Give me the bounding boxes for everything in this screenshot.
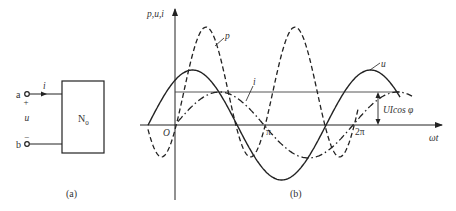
label-p: p xyxy=(224,31,230,41)
figure-canvas: a b + − u i N0 (a) p,u,i ωt O π 2π p i xyxy=(0,0,456,211)
arrow-up-icon xyxy=(376,92,381,98)
caption-a: (a) xyxy=(66,188,77,200)
mean-annotation: UIcos φ xyxy=(383,105,413,115)
label-i: i xyxy=(253,77,256,87)
arrow-down-icon xyxy=(376,119,381,125)
current-label: i xyxy=(43,81,46,91)
terminal-b-node xyxy=(25,142,30,147)
circuit-diagram: a b + − u i N0 (a) xyxy=(16,81,104,200)
minus-sign: − xyxy=(24,132,29,142)
label-u: u xyxy=(381,59,386,69)
tick-pi: π xyxy=(266,127,271,137)
waveform-plot: p,u,i ωt O π 2π p i u UIcos φ (b) xyxy=(140,9,442,200)
voltage-label: u xyxy=(25,113,30,123)
caption-b: (b) xyxy=(290,188,302,200)
terminal-a-label: a xyxy=(16,89,21,100)
leader-i xyxy=(246,86,253,101)
current-arrow-icon xyxy=(41,92,47,97)
x-axis-label: ωt xyxy=(429,133,439,143)
origin-label: O xyxy=(163,128,170,138)
terminal-b-label: b xyxy=(16,139,21,150)
tick-2pi: 2π xyxy=(355,127,365,137)
plus-sign: + xyxy=(24,97,29,107)
leader-p xyxy=(215,38,224,46)
y-axis-label: p,u,i xyxy=(146,9,164,19)
network-label: N0 xyxy=(78,113,89,127)
terminal-a-node xyxy=(25,92,30,97)
leader-u xyxy=(370,63,380,70)
